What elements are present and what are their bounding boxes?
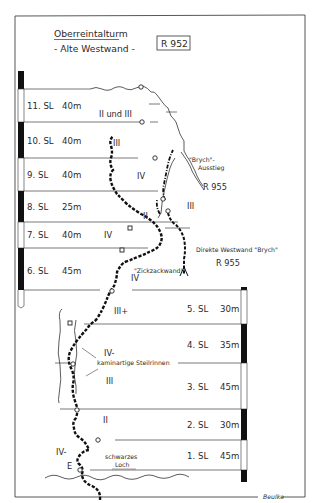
pitch-length: 45m bbox=[220, 382, 239, 392]
pitch-length: 40m bbox=[62, 230, 81, 240]
bar-segment-7 bbox=[18, 222, 24, 248]
start-marker: E bbox=[67, 461, 72, 471]
bar-segment-3 bbox=[241, 363, 247, 409]
grade-label: III bbox=[187, 201, 194, 211]
bar-segment-9 bbox=[18, 158, 24, 191]
pitch-label: 5. SL bbox=[187, 304, 208, 314]
bar-segment-10 bbox=[18, 122, 24, 158]
black-hole-label: schwarzes bbox=[105, 453, 137, 460]
pitch-length: 30m bbox=[220, 304, 239, 314]
pitch-label: 6. SL bbox=[27, 266, 48, 276]
black-hole-label-2: Loch bbox=[115, 461, 130, 468]
pitch-length: 35m bbox=[220, 340, 239, 350]
left-pitch-scale bbox=[18, 71, 24, 308]
pitch-label: 9. SL bbox=[27, 170, 48, 180]
grade-label: III bbox=[113, 138, 120, 148]
pitch-label: 10. SL bbox=[27, 136, 54, 146]
pitch-length: 25m bbox=[62, 202, 81, 212]
pitch-length: 40m bbox=[62, 101, 81, 111]
route-line-brych-exit-2 bbox=[157, 200, 160, 214]
signature: Beulke bbox=[263, 493, 284, 500]
pitch-label: 2. SL bbox=[187, 420, 208, 430]
grade-label: IV bbox=[137, 171, 145, 181]
brych-exit-label-2: Ausstieg bbox=[198, 164, 225, 172]
pitch-label: 11. SL bbox=[27, 101, 54, 111]
pitch-label: 3. SL bbox=[187, 382, 208, 392]
bar-segment-bottom bbox=[241, 470, 247, 482]
pitch-label: 1. SL bbox=[187, 451, 208, 461]
right-pitch-labels: 5. SL 30m 4. SL 35m 3. SL 45m 2. SL 30m … bbox=[187, 304, 239, 461]
grade-label: II bbox=[143, 211, 148, 221]
bar-segment-11 bbox=[18, 89, 24, 122]
direct-route-number: R 955 bbox=[216, 258, 240, 268]
route-topo-diagram: Beulke Oberreintalturm - Alte Westwand -… bbox=[0, 0, 323, 503]
chimney-pointer bbox=[82, 348, 96, 358]
grade-label: IV bbox=[131, 273, 139, 283]
grade-label: IV- bbox=[104, 348, 115, 358]
grade-label: III+ bbox=[114, 306, 128, 316]
pitch-label: 4. SL bbox=[187, 340, 208, 350]
pitch-length: 40m bbox=[62, 136, 81, 146]
bar-segment-1 bbox=[241, 440, 247, 470]
pitch-length: 30m bbox=[220, 420, 239, 430]
chimney-pointer-2 bbox=[86, 369, 98, 376]
page-subtitle: - Alte Westwand - bbox=[54, 43, 135, 54]
frame-border bbox=[15, 15, 305, 497]
grade-label: II bbox=[103, 415, 108, 425]
grade-label: IV bbox=[104, 230, 112, 240]
left-pitch-labels: 11. SL 40m 10. SL 40m 9. SL 40m 8. SL 25… bbox=[27, 101, 81, 276]
zigzag-label: "Zickzackwand!" bbox=[134, 267, 186, 274]
page-title: Oberreintalturm bbox=[54, 28, 128, 39]
route-number: R 952 bbox=[161, 38, 188, 49]
brych-exit-label: "Brych"- bbox=[189, 156, 215, 164]
bar-segment-top bbox=[18, 71, 24, 89]
pitch-length: 40m bbox=[62, 170, 81, 180]
chimney-label: kaminartige Steilrinnen bbox=[97, 359, 170, 367]
bar-segment-5 bbox=[241, 290, 247, 324]
pitch-length: 45m bbox=[62, 266, 81, 276]
pitch-label: 8. SL bbox=[27, 202, 48, 212]
right-pitch-scale bbox=[241, 287, 247, 482]
pitch-length: 45m bbox=[220, 451, 239, 461]
direct-route-label: Direkte Westwand "Brych" bbox=[196, 246, 278, 254]
bar-segment-top bbox=[241, 287, 247, 290]
grade-label: IV- bbox=[56, 447, 67, 457]
right-ledge-lines bbox=[55, 290, 241, 470]
left-ledge-lines bbox=[24, 89, 190, 290]
grade-label: III bbox=[106, 376, 113, 386]
bar-segment-4 bbox=[241, 324, 247, 363]
brych-exit-route-number: R 955 bbox=[203, 182, 227, 192]
bar-segment-8 bbox=[18, 191, 24, 222]
bar-segment-end bbox=[18, 290, 24, 308]
bar-segment-2 bbox=[241, 409, 247, 440]
bar-segment-6 bbox=[18, 248, 24, 290]
pitch-label: 7. SL bbox=[27, 230, 48, 240]
grade-label: II und III bbox=[99, 109, 132, 119]
